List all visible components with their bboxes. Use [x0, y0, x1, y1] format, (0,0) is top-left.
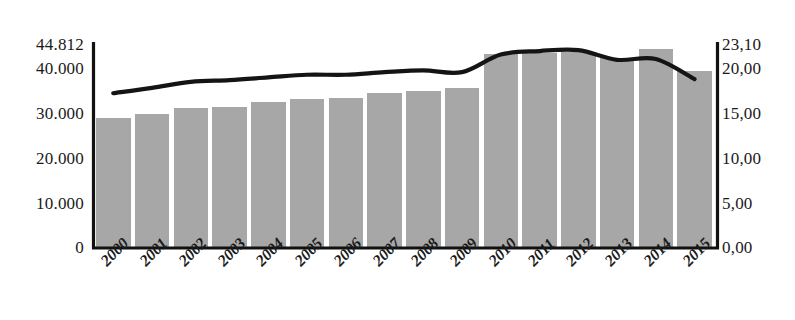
x-axis-tick-2009: 2009: [446, 234, 481, 269]
x-axis-tick-labels: 2000200120022003200420052006200720082009…: [0, 0, 795, 320]
x-axis-tick-2014: 2014: [640, 234, 675, 269]
x-axis-tick-2000: 2000: [97, 234, 132, 269]
x-axis-tick-2007: 2007: [369, 234, 404, 269]
x-axis-tick-2002: 2002: [175, 234, 210, 269]
x-axis-tick-2012: 2012: [562, 234, 597, 269]
x-axis-tick-2010: 2010: [485, 234, 520, 269]
x-axis-tick-2004: 2004: [252, 234, 287, 269]
x-axis-tick-2011: 2011: [524, 235, 559, 270]
x-axis-tick-2001: 2001: [136, 234, 171, 269]
x-axis-tick-2003: 2003: [214, 234, 249, 269]
x-axis-tick-2005: 2005: [291, 234, 326, 269]
x-axis-tick-2006: 2006: [330, 234, 365, 269]
x-axis-tick-2008: 2008: [407, 234, 442, 269]
x-axis-tick-2013: 2013: [601, 234, 636, 269]
x-axis-tick-2015: 2015: [679, 234, 714, 269]
chart-figure: 44.812 40.000 30.000 20.000 10.000 0 23,…: [0, 0, 795, 320]
